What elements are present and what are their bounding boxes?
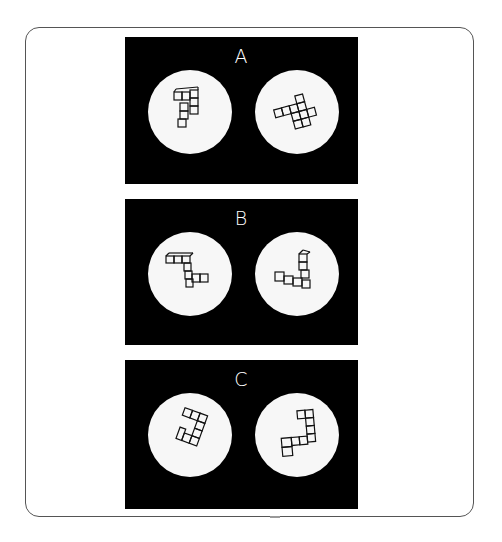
panel-label-c: C bbox=[125, 368, 358, 390]
bottom-tick-mark bbox=[270, 516, 280, 518]
cube-figure-icon bbox=[148, 393, 232, 477]
panel-c: C bbox=[125, 360, 358, 509]
panel-b: B bbox=[125, 199, 358, 345]
cube-figure-icon bbox=[255, 232, 339, 316]
disc-c-left bbox=[148, 393, 232, 477]
disc-a-right bbox=[255, 70, 339, 154]
cube-figure-icon bbox=[255, 70, 339, 154]
panel-label-a: A bbox=[125, 45, 358, 67]
panel-label-b: B bbox=[125, 207, 358, 229]
cube-figure-icon bbox=[148, 232, 232, 316]
panel-a: A bbox=[125, 37, 358, 184]
disc-a-left bbox=[148, 70, 232, 154]
disc-b-left bbox=[148, 232, 232, 316]
disc-b-right bbox=[255, 232, 339, 316]
cube-figure-icon bbox=[148, 70, 232, 154]
disc-c-right bbox=[255, 393, 339, 477]
cube-figure-icon bbox=[255, 393, 339, 477]
